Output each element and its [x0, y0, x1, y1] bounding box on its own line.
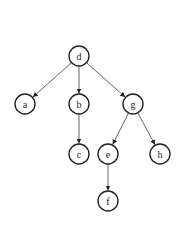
- arrow-icon: [33, 63, 72, 97]
- edge-d-a: [33, 63, 72, 97]
- node-label: b: [77, 99, 82, 110]
- node-g: g: [123, 94, 143, 114]
- node-label: c: [77, 149, 82, 160]
- edge-d-g: [86, 63, 125, 97]
- arrow-icon: [86, 63, 125, 97]
- node-h: h: [150, 144, 170, 164]
- node-e: e: [98, 144, 118, 164]
- node-label: d: [77, 51, 82, 62]
- node-d: d: [69, 46, 89, 66]
- nodes-group: dabgcehf: [15, 46, 170, 211]
- node-label: e: [106, 149, 111, 160]
- node-f: f: [98, 191, 118, 211]
- node-b: b: [69, 94, 89, 114]
- node-label: h: [158, 149, 163, 160]
- node-a: a: [15, 94, 35, 114]
- arrow-icon: [113, 113, 129, 145]
- arrow-icon: [138, 113, 155, 145]
- edge-g-h: [138, 113, 155, 145]
- node-c: c: [69, 144, 89, 164]
- tree-diagram: dabgcehf: [0, 0, 187, 233]
- edge-g-e: [113, 113, 129, 145]
- node-label: a: [23, 99, 28, 110]
- edges-group: [33, 63, 155, 191]
- node-label: g: [131, 99, 136, 110]
